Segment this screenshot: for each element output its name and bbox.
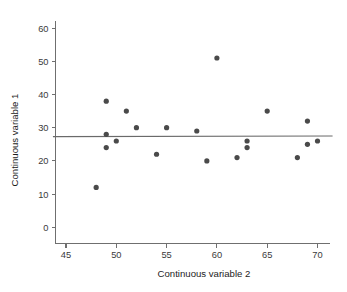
y-tick-label: 10 <box>38 190 48 200</box>
data-point <box>244 138 249 143</box>
regression-line <box>53 136 333 137</box>
data-point <box>315 138 320 143</box>
data-point <box>305 118 310 123</box>
data-point <box>104 99 109 104</box>
data-point <box>154 152 159 157</box>
y-tick-label: 40 <box>38 90 48 100</box>
regression-line <box>53 136 333 137</box>
x-tick-label: 45 <box>61 250 71 260</box>
data-point <box>265 109 270 114</box>
x-axis: 455055606570 <box>56 244 331 260</box>
data-point <box>295 155 300 160</box>
x-tick-label: 55 <box>161 250 171 260</box>
data-point <box>104 132 109 137</box>
y-tick-label: 30 <box>38 123 48 133</box>
x-tick-label: 65 <box>262 250 272 260</box>
plot-canvas: 0102030405060 455055606570 Continuous va… <box>0 0 347 292</box>
data-point <box>234 155 239 160</box>
data-point <box>164 125 169 130</box>
data-point <box>244 145 249 150</box>
y-tick-label: 50 <box>38 57 48 67</box>
data-point <box>124 109 129 114</box>
y-axis-title: Continuous variable 1 <box>9 94 20 187</box>
x-tick-label: 60 <box>212 250 222 260</box>
x-tick-label: 70 <box>312 250 322 260</box>
data-point <box>204 158 209 163</box>
data-point <box>114 138 119 143</box>
y-tick-label: 0 <box>43 223 48 233</box>
x-axis-title: Continuous variable 2 <box>158 268 251 279</box>
data-point <box>104 145 109 150</box>
y-axis: 0102030405060 <box>38 21 55 244</box>
data-points <box>94 55 321 190</box>
data-point <box>194 128 199 133</box>
data-point <box>134 125 139 130</box>
x-tick-label: 50 <box>111 250 121 260</box>
y-tick-label: 20 <box>38 156 48 166</box>
data-point <box>214 55 219 60</box>
data-point <box>94 185 99 190</box>
y-tick-label: 60 <box>38 24 48 34</box>
scatter-plot-figure: 0102030405060 455055606570 Continuous va… <box>0 0 347 292</box>
data-point <box>305 142 310 147</box>
